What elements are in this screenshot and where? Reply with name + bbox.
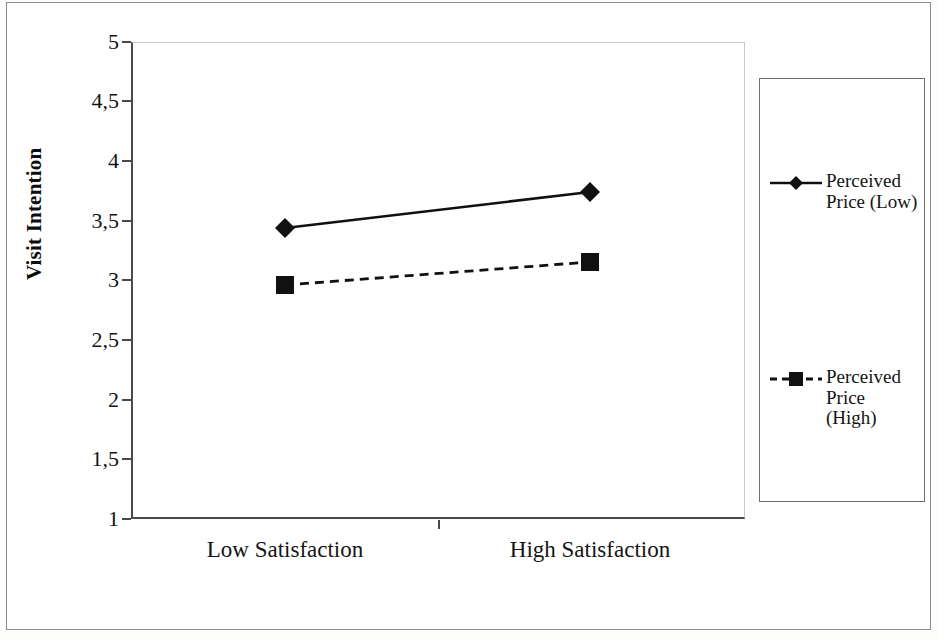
y-tick-mark-5 [122,41,131,43]
y-tick-label-5: 5 [49,31,119,53]
y-tick-label-4: 4 [49,150,119,172]
diamond-marker [789,176,803,190]
y-tick-mark-2 [122,399,131,401]
x-tick-mark-center [438,520,440,529]
y-tick-mark-3 [122,279,131,281]
y-tick-label-3-5: 3,5 [49,210,119,232]
y-tick-mark-1-5 [122,458,131,460]
y-tick-label-1: 1 [49,508,119,530]
legend-item-perceived-price-low[interactable]: Perceived Price (Low) [770,171,920,212]
y-tick-mark-4-5 [122,100,131,102]
legend-sample-dashed-square [770,369,822,389]
y-axis-title: Visit Intention [22,148,47,280]
y-tick-label-4-5: 4,5 [49,90,119,112]
plot-area [131,42,745,519]
y-tick-label-2-5: 2,5 [49,329,119,351]
chart-legend: Perceived Price (Low) Perceived Price (H… [759,78,925,502]
y-tick-label-1-5: 1,5 [49,448,119,470]
y-tick-mark-2-5 [122,339,131,341]
y-tick-label-3: 3 [49,269,119,291]
y-tick-mark-1 [122,518,131,520]
legend-label-perceived-price-high: Perceived Price (High) [826,367,920,429]
x-tick-label-high-satisfaction: High Satisfaction [510,538,670,561]
legend-item-perceived-price-high[interactable]: Perceived Price (High) [770,367,920,429]
y-tick-label-2: 2 [49,389,119,411]
y-tick-mark-4 [122,160,131,162]
y-tick-mark-3-5 [122,220,131,222]
legend-sample-solid-diamond [770,173,822,193]
legend-label-perceived-price-low: Perceived Price (Low) [826,171,917,212]
figure-page: Visit Intention 5 4,5 4 3,5 3 2,5 2 1,5 … [0,0,939,641]
square-marker [789,372,803,386]
x-tick-label-low-satisfaction: Low Satisfaction [207,538,364,561]
